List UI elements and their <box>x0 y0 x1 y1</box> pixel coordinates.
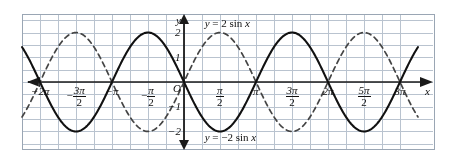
x-axis-label: x <box>425 86 430 97</box>
x-tick-label: −2π <box>31 86 49 97</box>
sine-graph-figure: −2π−3π2−π−π2π2π3π22π5π23π 21−1−2 x y O y… <box>0 0 457 164</box>
plot-area: −2π−3π2−π−π2π2π3π22π5π23π 21−1−2 x y O y… <box>22 14 435 150</box>
x-tick-label: π <box>253 86 259 97</box>
x-tick-label: −3π2 <box>67 85 86 108</box>
x-tick-label: −π2 <box>141 85 155 108</box>
x-tick-label: π2 <box>216 85 224 108</box>
equation-label-neg2sinx: y = −2 sin x <box>205 132 257 143</box>
y-tick-label: −1 <box>168 101 181 112</box>
x-tick-label: 5π2 <box>358 85 371 108</box>
origin-label: O <box>173 83 181 94</box>
y-tick-label: 1 <box>175 52 181 63</box>
y-tick-label: 2 <box>175 27 181 38</box>
x-tick-label: 3π <box>395 86 406 97</box>
x-tick-label: 2π <box>323 86 334 97</box>
y-axis-bottom-arrowhead <box>179 140 189 150</box>
equation-label-2sinx: y = 2 sin x <box>205 18 250 29</box>
x-tick-label: −π <box>106 86 119 97</box>
y-axis-label: y <box>176 15 181 26</box>
x-tick-label: 3π2 <box>286 85 299 108</box>
y-tick-label: −2 <box>168 126 181 137</box>
curves-layer <box>22 14 435 150</box>
